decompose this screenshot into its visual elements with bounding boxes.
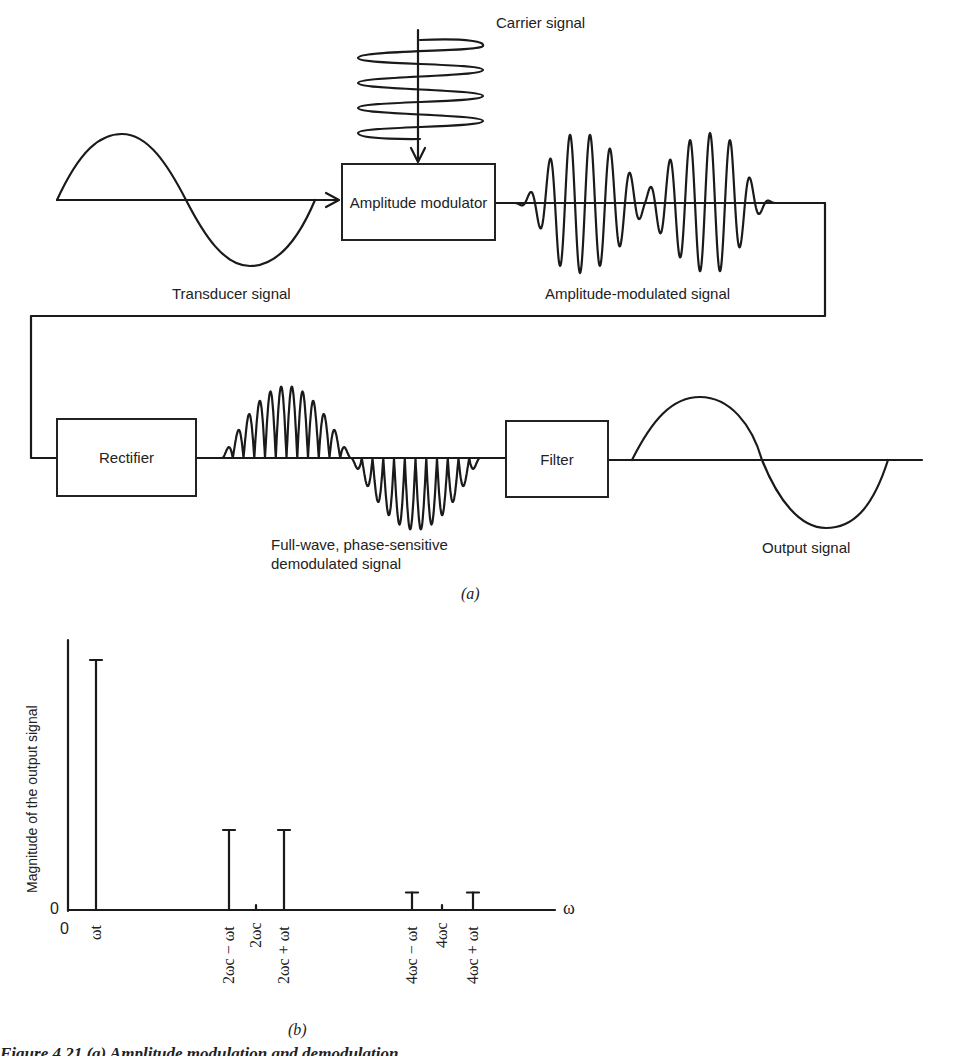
output-signal-waveform <box>608 397 922 528</box>
filter-block: Filter <box>505 420 609 498</box>
rectifier-block: Rectifier <box>56 418 197 497</box>
demodulated-signal-waveform <box>196 387 505 530</box>
x-tick-label: ωt <box>87 925 105 940</box>
x-tick-label: 2ωc − ωt <box>220 926 238 984</box>
x-origin-label: 0 <box>60 920 69 938</box>
x-tick-label: 2ωc + ωt <box>275 926 293 984</box>
transducer-signal-label: Transducer signal <box>172 285 291 302</box>
y-axis-label: Magnitude of the output signal <box>24 705 40 893</box>
spectrum-chart <box>68 640 555 911</box>
x-tick-label: 2ωc <box>247 922 265 948</box>
subfigure-label-b: (b) <box>288 1021 307 1039</box>
subfigure-label-a: (a) <box>461 585 480 603</box>
x-tick-label: 4ωc − ωt <box>403 926 421 984</box>
x-axis-label: ω <box>563 898 575 919</box>
am-signal-label: Amplitude-modulated signal <box>545 285 730 302</box>
diagram-canvas <box>0 0 954 1062</box>
x-tick-label: 4ωc <box>433 922 451 948</box>
carrier-signal-label: Carrier signal <box>496 14 585 31</box>
demod-signal-label-1: Full-wave, phase-sensitive <box>271 536 448 553</box>
output-signal-label: Output signal <box>762 539 850 556</box>
amplitude-modulator-block: Amplitude modulator <box>341 163 496 241</box>
transducer-signal-waveform <box>57 134 339 266</box>
carrier-signal-waveform <box>358 30 483 162</box>
x-tick-label: 4ωc + ωt <box>464 926 482 984</box>
y-origin-label: 0 <box>50 900 59 918</box>
demod-signal-label-2: demodulated signal <box>271 555 401 572</box>
